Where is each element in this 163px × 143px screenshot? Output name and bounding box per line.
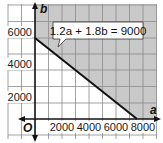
origin-label: O [23,121,33,135]
x-tick-label: 6000 [104,121,128,133]
y-tick-label: 6000 [8,26,32,38]
x-tick-label: 4000 [77,121,101,133]
y-tick-label: 4000 [8,58,32,70]
y-axis-arrow-down-icon [32,135,38,142]
y-tick-label: 2000 [8,91,32,103]
y-axis-label: b [40,2,47,16]
x-axis-label: a [150,103,157,117]
inequality-graph: b a O 6000 4000 2000 2000 4000 6000 8000… [0,0,163,143]
x-tick-label: 2000 [50,121,74,133]
equation-label: 1.2a + 1.8b = 9000 [50,25,147,37]
x-tick-label: 8000 [131,121,155,133]
